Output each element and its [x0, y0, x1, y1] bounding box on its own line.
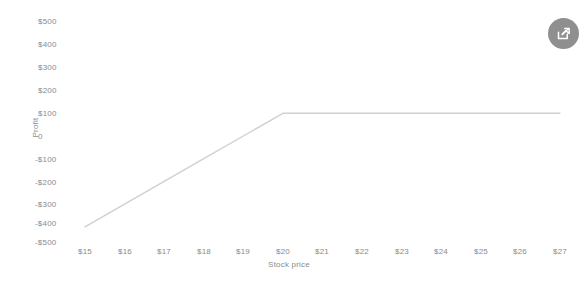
x-tick-label-22: $22 [355, 247, 369, 256]
x-tick-label-25: $25 [474, 247, 488, 256]
y-tick-label-500: $500 [38, 17, 57, 26]
y-tick-label-neg200: -$200 [35, 178, 56, 187]
y-tick-label-neg100: -$100 [35, 155, 56, 164]
x-tick-label-23: $23 [395, 247, 409, 256]
x-tick-label-15: $15 [78, 247, 92, 256]
y-tick-label-200: $200 [38, 86, 57, 95]
y-tick-label-neg400: -$400 [35, 219, 56, 228]
profit-chart: $500 $400 $300 $200 $100 0 -$100 -$200 -… [0, 0, 588, 285]
x-tick-label-17: $17 [157, 247, 171, 256]
x-tick-label-21: $21 [315, 247, 329, 256]
y-tick-label-neg500: -$500 [35, 238, 56, 247]
x-tick-label-27: $27 [553, 247, 567, 256]
x-tick-label-18: $18 [197, 247, 211, 256]
y-tick-label-400: $400 [38, 40, 57, 49]
x-tick-label-24: $24 [434, 247, 448, 256]
right-gutter [578, 0, 588, 285]
y-axis-title: Profit [31, 106, 40, 150]
y-tick-label-100: $100 [38, 109, 57, 118]
share-button[interactable] [548, 18, 579, 49]
x-tick-label-19: $19 [236, 247, 250, 256]
plot-svg [0, 0, 578, 285]
share-icon [556, 26, 571, 41]
plot-area [0, 0, 578, 285]
x-tick-label-26: $26 [513, 247, 527, 256]
y-tick-label-neg300: -$300 [35, 200, 56, 209]
x-tick-label-16: $16 [118, 247, 132, 256]
x-tick-label-20: $20 [276, 247, 290, 256]
y-tick-label-300: $300 [38, 63, 57, 72]
profit-line-series [85, 113, 560, 227]
x-axis-title: Stock price [0, 260, 578, 269]
